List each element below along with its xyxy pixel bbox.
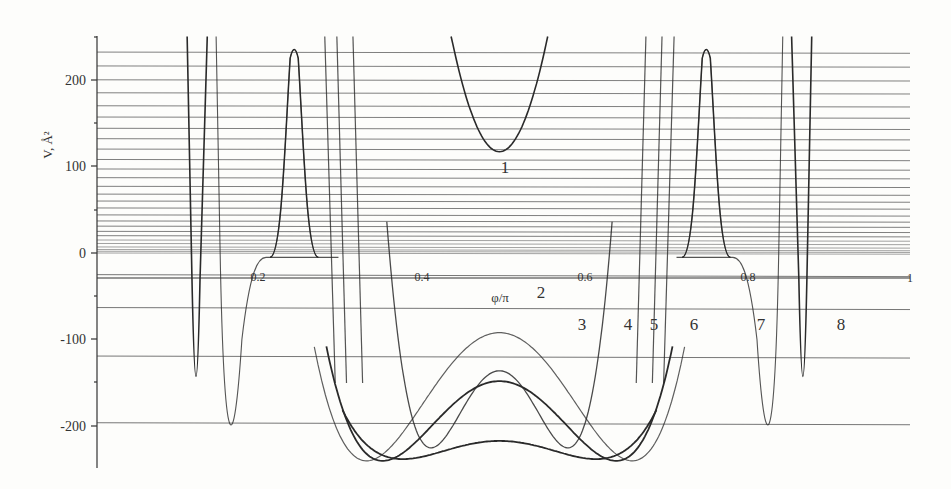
curve-label-1: 1: [501, 158, 510, 177]
curve-wall: [353, 37, 363, 383]
energy-level-line: [97, 221, 910, 222]
curve-wall: [664, 37, 674, 383]
energy-level-line: [97, 250, 910, 251]
curve-5: [343, 410, 657, 459]
energy-level-line: [97, 308, 910, 310]
curve-wall: [337, 37, 347, 383]
energy-level-line: [97, 247, 910, 248]
curve-8: [187, 37, 207, 377]
energy-level-line: [97, 128, 910, 129]
energy-level-line: [97, 93, 910, 94]
x-axis-title: φ/π: [491, 290, 509, 305]
energy-level-line: [97, 253, 910, 254]
y-axis-title: V, Å²: [40, 131, 55, 159]
energy-level-line: [97, 106, 910, 107]
curve-label-3: 3: [578, 315, 587, 334]
energy-level-line: [97, 356, 910, 358]
energy-level-line: [97, 231, 910, 232]
energy-level-line: [97, 52, 910, 53]
x-tick-label: 0.4: [415, 270, 430, 284]
curve-label-7: 7: [757, 315, 766, 334]
curve-7: [216, 37, 338, 426]
energy-level-line: [97, 66, 910, 67]
potential-chart: 200 100 0 -100 -200 V, Å² 0.2 0.4 0.6 0.…: [0, 0, 951, 489]
energy-level-line: [97, 236, 910, 237]
y-tick-label: -200: [60, 419, 86, 434]
x-tick-label: 0.2: [251, 270, 266, 284]
y-tick-label: -100: [60, 332, 86, 347]
y-axis: [91, 36, 97, 468]
energy-levels: [97, 52, 910, 425]
x-tick-label: 0.8: [741, 270, 756, 284]
y-tick-label: 0: [79, 246, 86, 261]
curve-8: [792, 37, 812, 377]
y-tick-label: 200: [65, 73, 86, 88]
y-tick-label: 100: [65, 159, 86, 174]
curves: [187, 37, 812, 461]
curve-label-2: 2: [537, 283, 546, 302]
energy-level-line: [97, 275, 910, 277]
curve-label-6: 6: [690, 315, 699, 334]
curve-7: [677, 37, 783, 426]
curve-label-4: 4: [624, 315, 633, 334]
x-tick-label: 0.6: [578, 270, 593, 284]
energy-level-line: [97, 240, 910, 241]
energy-level-line: [97, 80, 910, 81]
curve-wall: [325, 37, 335, 383]
energy-level-line: [97, 226, 910, 227]
energy-level-line: [97, 423, 910, 425]
curve-1: [451, 37, 548, 152]
energy-level-line: [97, 251, 910, 252]
energy-level-line: [97, 139, 910, 140]
curve-label-5: 5: [650, 315, 659, 334]
energy-level-line: [97, 117, 910, 118]
curve-4: [326, 346, 672, 460]
x-tick-label: 1: [907, 271, 913, 285]
energy-level-line: [97, 243, 910, 244]
curve-label-8: 8: [837, 315, 846, 334]
curve-2: [387, 222, 612, 448]
curve-wall: [636, 37, 646, 383]
